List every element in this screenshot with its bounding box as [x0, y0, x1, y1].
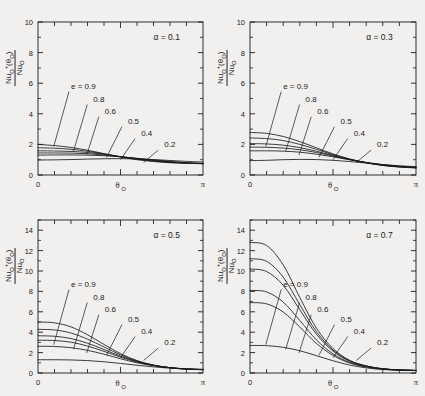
y-tick-label: 8: [241, 287, 245, 296]
y-axis-label-numerator: NuO+(θO): [215, 248, 228, 284]
series-label-0p6: 0.6: [317, 305, 329, 314]
svg-text:O: O: [121, 384, 126, 390]
series-label-0p9: e = 0.9: [283, 82, 308, 91]
svg-text:O: O: [334, 384, 339, 390]
y-tick-label: 4: [241, 110, 245, 119]
series-leader-line: [286, 105, 300, 152]
y-tick-label: 2: [241, 140, 245, 149]
series-leader-line: [54, 290, 69, 345]
x-axis-label: θO: [115, 378, 126, 390]
chart-panel-bottom-right: 024681012140πθOα = 0.7e = 0.90.80.60.50.…: [212, 198, 425, 396]
series-leader-line: [266, 92, 281, 147]
svg-text:θ: θ: [328, 378, 332, 388]
y-tick-label: 4: [29, 328, 33, 337]
series-leader-line: [356, 348, 371, 360]
series-leader-line: [121, 139, 136, 160]
series-curve-e-0p5: [250, 147, 416, 167]
y-tick-label: 0: [241, 369, 245, 378]
series-curve-e-0p9: [250, 132, 416, 167]
series-label-0p2: 0.2: [164, 140, 176, 149]
svg-text:O: O: [121, 186, 126, 192]
y-tick-label: 2: [29, 140, 33, 149]
x-tick-label-min: 0: [248, 378, 252, 387]
series-label-0p2: 0.2: [377, 140, 389, 149]
y-tick-label: 10: [25, 18, 33, 27]
x-tick-label-max: π: [201, 179, 206, 189]
series-curve-e-0p4: [250, 151, 416, 167]
y-axis-label-denominator: NuO: [16, 50, 26, 86]
y-tick-label: 2: [241, 349, 245, 358]
series-label-0p9: e = 0.9: [283, 280, 308, 289]
series-leader-line: [356, 150, 371, 162]
x-tick-label-min: 0: [248, 180, 252, 189]
series-leader-line: [106, 127, 121, 158]
plot-frame: [250, 22, 416, 175]
svg-text:θ: θ: [115, 378, 119, 388]
y-axis-label-denominator: NuO: [16, 248, 26, 284]
alpha-annotation: α = 0.7: [366, 230, 393, 240]
series-label-0p8: 0.8: [93, 95, 105, 104]
series-label-0p2: 0.2: [377, 338, 389, 347]
chart-panel-top-right: 02468100πθOα = 0.3e = 0.90.80.60.50.40.2: [212, 0, 425, 198]
series-label-0p5: 0.5: [340, 315, 352, 324]
series-label-0p6: 0.6: [317, 107, 329, 116]
series-label-0p9: e = 0.9: [71, 280, 96, 289]
x-axis-label: θO: [115, 180, 126, 192]
y-tick-label: 14: [25, 226, 33, 235]
series-label-0p8: 0.8: [306, 293, 318, 302]
y-tick-label: 0: [29, 171, 33, 180]
alpha-annotation: α = 0.3: [366, 32, 393, 42]
series-leader-line: [87, 117, 99, 155]
y-tick-label: 2: [29, 349, 33, 358]
y-tick-label: 10: [237, 18, 245, 27]
y-tick-label: 0: [29, 369, 33, 378]
x-tick-label-max: π: [414, 179, 419, 189]
y-tick-label: 10: [25, 267, 33, 276]
series-label-0p4: 0.4: [354, 129, 366, 138]
series-leader-line: [266, 290, 281, 345]
y-axis-label-numerator: NuO+(θO): [3, 50, 16, 86]
y-tick-label: 12: [237, 247, 245, 256]
series-label-0p6: 0.6: [105, 305, 117, 314]
series-leader-line: [144, 348, 159, 360]
series-label-0p4: 0.4: [141, 129, 153, 138]
series-label-0p2: 0.2: [164, 338, 176, 347]
y-axis-label-numerator: NuO+(θO): [3, 248, 16, 284]
y-axis-label-denominator: NuO: [228, 248, 238, 284]
figure-root: 02468100πθOα = 0.1e = 0.90.80.60.50.40.2…: [0, 0, 425, 396]
y-tick-label: 6: [29, 79, 33, 88]
y-axis-label-numerator: NuO+(θO): [215, 50, 228, 86]
series-curve-e-0p4: [38, 346, 203, 369]
plot-frame: [38, 220, 203, 373]
series-leader-line: [286, 303, 300, 350]
y-tick-label: 8: [29, 49, 33, 58]
x-axis-label: θO: [328, 180, 339, 192]
series-curve-e-0p9: [38, 322, 203, 370]
x-axis-label: θO: [328, 378, 339, 390]
series-label-0p4: 0.4: [141, 327, 153, 336]
y-tick-label: 12: [25, 247, 33, 256]
series-label-0p6: 0.6: [105, 107, 117, 116]
y-tick-label: 4: [29, 110, 33, 119]
series-label-0p8: 0.8: [306, 95, 318, 104]
series-curve-e-0p8: [250, 138, 416, 168]
chart-panel-bottom-left: 024681012140πθOα = 0.5e = 0.90.80.60.50.…: [0, 198, 212, 396]
series-curve-e-0p2: [250, 159, 416, 166]
series-curve-e-0p5: [250, 290, 416, 370]
chart-panel-top-left: 02468100πθOα = 0.1e = 0.90.80.60.50.40.2: [0, 0, 212, 198]
x-tick-label-max: π: [201, 377, 206, 387]
x-tick-label-max: π: [414, 377, 419, 387]
y-tick-label: 10: [237, 267, 245, 276]
y-tick-label: 8: [29, 287, 33, 296]
y-tick-label: 14: [237, 226, 245, 235]
y-tick-label: 6: [241, 308, 245, 317]
x-tick-label-min: 0: [36, 180, 40, 189]
series-leader-line: [121, 337, 136, 358]
alpha-annotation: α = 0.1: [153, 32, 180, 42]
series-label-0p5: 0.5: [128, 315, 140, 324]
series-leader-line: [299, 315, 311, 353]
y-tick-label: 6: [29, 308, 33, 317]
series-label-0p9: e = 0.9: [71, 82, 96, 91]
series-label-0p5: 0.5: [340, 117, 352, 126]
series-leader-line: [54, 92, 69, 147]
